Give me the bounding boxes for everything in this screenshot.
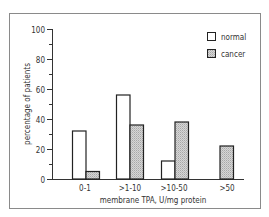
bar-normal [73, 131, 87, 179]
bar-normal [117, 95, 131, 179]
legend-swatch-cancer [208, 50, 216, 58]
y-tick-label: 60 [36, 86, 46, 95]
bar-chart: 020406080100 percentage of patients 0-1>… [0, 0, 269, 217]
y-tick-label: 40 [36, 116, 46, 125]
bars [73, 95, 234, 179]
x-tick-label: >1-10 [119, 184, 142, 193]
x-tick-label: 0-1 [79, 184, 91, 193]
bar-cancer [220, 146, 234, 179]
y-tick-label: 80 [36, 56, 46, 65]
x-axis-title: membrane TPA, U/mg protein [100, 196, 207, 205]
legend: normal cancer [208, 33, 247, 60]
y-tick-label: 0 [40, 176, 45, 185]
bar-cancer [86, 172, 100, 180]
bar-cancer [175, 122, 189, 179]
bar-cancer [130, 125, 144, 179]
x-tick-label: >50 [219, 184, 235, 193]
y-axis: 020406080100 [31, 26, 52, 185]
y-tick-label: 100 [31, 26, 45, 35]
y-axis-title: percentage of patients [23, 63, 32, 145]
x-tick-labels: 0-1>1-10>10-50>50 [79, 184, 235, 193]
legend-label-cancer: cancer [221, 50, 245, 59]
legend-label-normal: normal [221, 33, 246, 42]
x-tick-label: >10-50 [161, 184, 188, 193]
legend-swatch-normal [208, 33, 216, 41]
bar-normal [162, 161, 176, 179]
y-tick-label: 20 [36, 146, 46, 155]
